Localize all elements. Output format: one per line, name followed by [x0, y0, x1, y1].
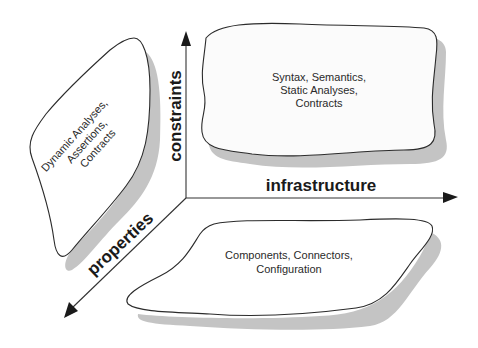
top-right-line-3: Contracts [295, 97, 343, 109]
bottom-line-1: Components, Connectors, [225, 249, 353, 261]
bottom-line-2: Configuration [256, 263, 321, 275]
infrastructure-axis-label: infrastructure [266, 176, 377, 195]
top-right-line-2: Static Analyses, [280, 84, 358, 96]
constraints-arrowhead-icon [181, 31, 191, 46]
three-axis-diagram: constraints infrastructure properties Sy… [0, 0, 478, 348]
top-right-line-1: Syntax, Semantics, [272, 71, 366, 83]
infrastructure-arrowhead-icon [443, 192, 458, 203]
constraints-axis-label: constraints [166, 70, 185, 162]
